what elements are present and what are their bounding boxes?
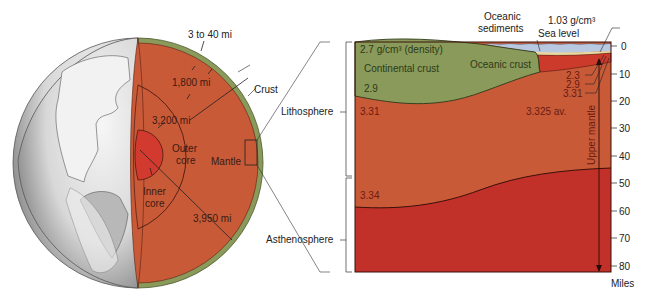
label-asthenosphere-density: 3.34 <box>360 190 380 201</box>
globe <box>13 38 330 288</box>
label-mantle-depth: 1,800 mi <box>172 77 210 88</box>
label-oceanic-sediments-1: Oceanic <box>484 11 521 22</box>
axis-tick-50: 50 <box>619 178 631 189</box>
label-lithosphere: Lithosphere <box>281 106 334 117</box>
axis-tick-0: 0 <box>621 41 627 52</box>
label-continental-crust: Continental crust <box>364 63 439 74</box>
axis-tick-40: 40 <box>619 151 631 162</box>
label-asthenosphere: Asthenosphere <box>266 234 334 245</box>
axis-tick-80: 80 <box>619 261 631 272</box>
axis-unit: Miles <box>611 278 634 289</box>
earth-structure-diagram: 3 to 40 mi 1,800 mi 3,200 mi Crust Outer… <box>0 0 656 302</box>
label-continental-density: 2.7 g/cm³ (density) <box>360 44 443 55</box>
axis-tick-60: 60 <box>619 206 631 217</box>
asthenosphere-bracket <box>346 178 352 272</box>
axis-tick-10: 10 <box>619 69 631 80</box>
label-inner-core-2: core <box>145 198 165 209</box>
axis-tick-30: 30 <box>619 123 631 134</box>
label-crust-thickness: 3 to 40 mi <box>188 29 232 40</box>
label-seawater-density: 1.03 g/cm³ <box>548 15 596 26</box>
label-oceanic-sediments-2: sediments <box>478 23 524 34</box>
label-crust: Crust <box>254 84 278 95</box>
axis-tick-70: 70 <box>619 233 631 244</box>
crust-arrow <box>201 41 204 51</box>
label-outer-core-depth: 3,200 mi <box>152 115 190 126</box>
label-oceanic-d3: 3.31 <box>563 88 583 99</box>
depth-axis <box>611 46 617 266</box>
lithosphere-bracket <box>346 42 352 176</box>
label-outer-core-1: Outer <box>172 143 198 154</box>
label-oceanic-crust: Oceanic crust <box>470 59 531 70</box>
axis-tick-20: 20 <box>619 96 631 107</box>
label-continental-lower: 2.9 <box>364 83 378 94</box>
label-mantle: Mantle <box>211 156 241 167</box>
label-mantle-avg: 3.325 av. <box>526 106 566 117</box>
label-inner-core-1: Inner <box>143 186 166 197</box>
label-sea-level: Sea level <box>538 28 579 39</box>
label-radius: 3,950 mi <box>193 213 231 224</box>
label-mantle-density: 3.31 <box>360 106 380 117</box>
label-outer-core-2: core <box>176 155 196 166</box>
label-upper-mantle: Upper mantle <box>586 105 597 165</box>
